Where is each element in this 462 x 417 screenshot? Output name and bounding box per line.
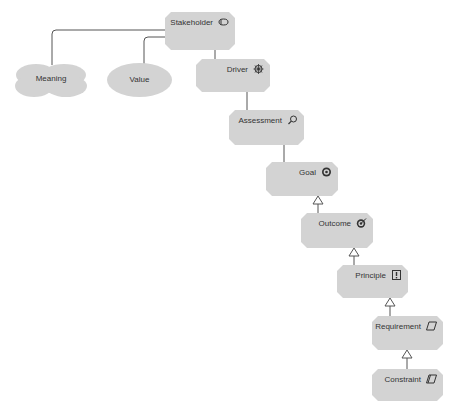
node-goal[interactable]: Goal (266, 162, 338, 196)
node-driver[interactable]: Driver (196, 59, 270, 92)
node-label: Assessment (238, 116, 282, 125)
realization-arrowhead (349, 248, 359, 256)
connection-stakeholder-value[interactable] (144, 37, 165, 64)
node-label: Stakeholder (170, 18, 213, 27)
realization-arrowhead (385, 298, 395, 306)
node-label: Requirement (375, 322, 421, 331)
node-principle[interactable]: Principle (337, 265, 408, 298)
realization-arrowhead (313, 196, 323, 204)
node-label: Meaning (14, 74, 88, 83)
node-outcome[interactable]: Outcome (301, 213, 373, 248)
connection-stakeholder-meaning[interactable] (52, 30, 165, 65)
node-label: Outcome (319, 219, 351, 228)
node-label: Value (107, 75, 172, 84)
diagram-canvas: Stakeholder Meaning Value Driver (0, 0, 462, 417)
node-label: Principle (355, 271, 386, 280)
node-label: Goal (299, 168, 316, 177)
parallelogram-lines-icon (426, 374, 437, 384)
node-label: Constraint (385, 375, 421, 384)
realization-arrowhead (402, 350, 412, 358)
node-requirement[interactable]: Requirement (372, 316, 443, 350)
magnifier-icon (287, 115, 298, 125)
node-label: Driver (227, 65, 248, 74)
stakeholder-icon (218, 17, 229, 27)
driver-icon (253, 64, 264, 74)
parallelogram-icon (426, 321, 437, 331)
node-meaning[interactable]: Meaning (14, 62, 88, 98)
node-stakeholder[interactable]: Stakeholder (165, 12, 235, 50)
node-constraint[interactable]: Constraint (372, 369, 443, 401)
node-assessment[interactable]: Assessment (229, 110, 304, 145)
target-arrow-icon (356, 218, 367, 228)
node-value[interactable]: Value (107, 63, 172, 97)
exclamation-box-icon (391, 270, 402, 280)
target-icon (321, 167, 332, 177)
